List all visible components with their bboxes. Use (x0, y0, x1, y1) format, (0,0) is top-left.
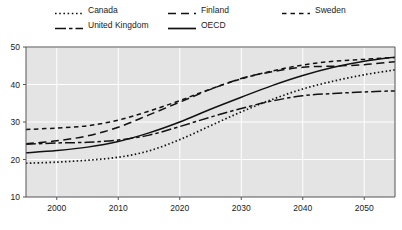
x-tick-label: 2000 (47, 203, 66, 213)
legend-label-united-kingdom: United Kingdom (88, 20, 148, 31)
x-tick-label: 2040 (293, 203, 312, 213)
y-tick-label: 40 (11, 80, 21, 90)
legend-item-canada[interactable]: Canada (55, 4, 118, 17)
chart-plot-area: 5040302010 200020102020203020402050 (0, 36, 402, 230)
legend-swatch-oecd (168, 20, 196, 31)
x-tick-label: 2010 (109, 203, 128, 213)
y-tick-label: 10 (11, 192, 21, 202)
legend-swatch-canada (55, 5, 83, 16)
x-axis-tick-labels: 200020102020203020402050 (47, 203, 374, 213)
legend-label-oecd: OECD (201, 20, 226, 31)
x-tick-label: 2030 (232, 203, 251, 213)
legend-item-sweden[interactable]: Sweden (282, 4, 346, 17)
chart-legend: Canada Finland Sweden (0, 0, 402, 36)
legend-label-finland: Finland (201, 5, 229, 16)
y-tick-label: 20 (11, 155, 21, 165)
y-axis-tick-labels: 5040302010 (11, 42, 21, 202)
legend-swatch-united-kingdom (55, 20, 83, 31)
x-tick-label: 2050 (355, 203, 374, 213)
legend-label-canada: Canada (88, 5, 118, 16)
x-tick-label: 2020 (170, 203, 189, 213)
chart-svg: 5040302010 200020102020203020402050 (0, 36, 402, 230)
chart-figure: Canada Finland Sweden (0, 0, 402, 230)
legend-swatch-sweden (282, 5, 310, 16)
y-tick-label: 50 (11, 42, 21, 52)
legend-item-finland[interactable]: Finland (168, 4, 229, 17)
legend-item-united-kingdom[interactable]: United Kingdom (55, 19, 148, 32)
legend-item-oecd[interactable]: OECD (168, 19, 226, 32)
legend-label-sweden: Sweden (315, 5, 346, 16)
y-tick-label: 30 (11, 117, 21, 127)
legend-swatch-finland (168, 5, 196, 16)
